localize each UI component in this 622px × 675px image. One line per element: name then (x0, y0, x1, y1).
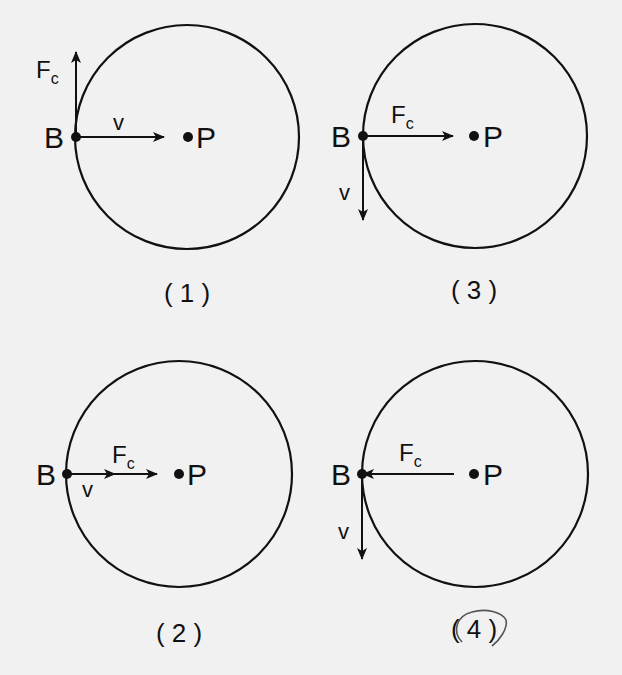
force-label: Fc (391, 101, 414, 132)
four-circular-motion-diagrams: B P Fc v ( 1 ) B P Fc v ( 3 ) B P Fc v (… (0, 0, 622, 675)
velocity-label: v (82, 477, 93, 502)
force-label: Fc (36, 56, 59, 87)
diagram-1: B P Fc v ( 1 ) (36, 25, 299, 308)
point-b-dot (357, 469, 367, 479)
diagram-sheet: B P Fc v ( 1 ) B P Fc v ( 3 ) B P Fc v (… (0, 0, 622, 675)
force-label: Fc (399, 439, 422, 470)
point-b-label: B (331, 120, 351, 153)
point-b-dot (358, 131, 368, 141)
point-b-label: B (331, 458, 351, 491)
caption-4: ( 4 ) (451, 614, 497, 644)
force-label: Fc (112, 441, 135, 472)
point-p-label: P (483, 120, 503, 153)
point-p-label: P (196, 121, 216, 154)
point-b-dot (71, 132, 81, 142)
diagram-4: B P Fc v ( 4 ) (331, 361, 588, 646)
velocity-label: v (338, 519, 349, 544)
caption-1: ( 1 ) (164, 278, 210, 308)
velocity-label: v (113, 110, 124, 135)
point-b-label: B (44, 121, 64, 154)
point-b-dot (62, 469, 72, 479)
caption-2: ( 2 ) (156, 618, 202, 648)
point-p-dot (183, 132, 193, 142)
diagram-2: B P Fc v ( 2 ) (36, 361, 292, 648)
point-p-dot (469, 131, 479, 141)
caption-3: ( 3 ) (451, 275, 497, 305)
point-p-dot (469, 469, 479, 479)
point-p-label: P (483, 458, 503, 491)
point-p-dot (174, 469, 184, 479)
diagram-3: B P Fc v ( 3 ) (331, 24, 587, 305)
point-p-label: P (187, 458, 207, 491)
point-b-label: B (36, 458, 56, 491)
velocity-label: v (339, 180, 350, 205)
